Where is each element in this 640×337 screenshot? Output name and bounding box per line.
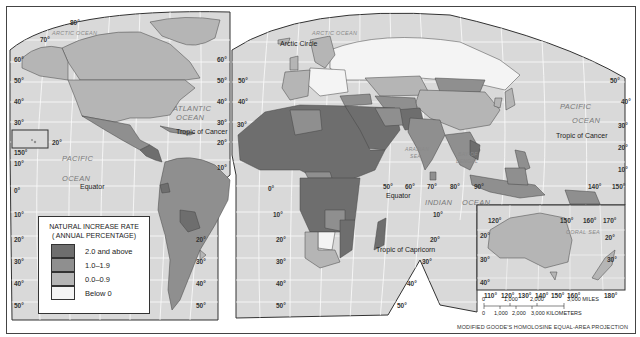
inset-lat-30: 30° — [480, 257, 490, 264]
bay-of-bengal-label-2: BENGAL — [456, 159, 478, 164]
lat-mid-20: 20° — [217, 140, 227, 147]
lat-50: 50° — [14, 78, 24, 85]
lat-afr-20: 20° — [276, 237, 286, 244]
lat-ind-10: 10° — [433, 212, 443, 219]
scale-km-1000: 1,000 — [494, 311, 508, 317]
lat-right-50: 50° — [610, 78, 620, 85]
legend-label: 0.0–0.9 — [85, 275, 110, 284]
inset-lat-r-20: 20° — [605, 235, 615, 242]
lat-s10: 10° — [14, 212, 24, 219]
scale-mi-3000: 3,000 MILES — [567, 297, 599, 303]
legend-swatch — [51, 244, 75, 258]
legend-swatch — [51, 272, 75, 286]
arabian-sea-label-2: SEA — [410, 154, 421, 159]
inset-lon-b150: 150° — [551, 293, 564, 300]
inset-lon-180: 180° — [604, 293, 617, 300]
lat-80: 80° — [70, 20, 80, 27]
lat-afr-10: 10° — [273, 212, 283, 219]
lat-mid-10: 10° — [217, 165, 227, 172]
inset-lon-160: 160° — [583, 218, 596, 225]
turkey — [340, 94, 372, 106]
lat-right-30: 30° — [618, 123, 628, 130]
arctic-circle-label: Arctic Circle — [280, 40, 317, 47]
mongolia — [435, 78, 485, 92]
lat-eu-50: 50° — [238, 78, 248, 85]
indian-ocean-label: OCEAN — [462, 199, 490, 207]
png — [565, 190, 600, 204]
lon-150: 150° — [612, 184, 625, 191]
pacific-west-label-2: OCEAN — [62, 175, 90, 183]
legend-item: 1.0–1.9 — [51, 258, 146, 272]
lat-afr-40: 40° — [276, 281, 286, 288]
legend: NATURAL INCREASE RATE ( ANNUAL PERCENTAG… — [38, 216, 150, 314]
atlantic-label-2: OCEAN — [176, 114, 204, 122]
lon-70: 70° — [427, 184, 437, 191]
equator-west-label: Equator — [80, 183, 105, 190]
lat-60: 60° — [14, 57, 24, 64]
scale-bar — [484, 303, 564, 309]
lat-mid-30: 30° — [217, 120, 227, 127]
inset-lon-120: 120° — [488, 218, 501, 225]
inset-lon-110: 110° — [484, 293, 497, 300]
legend-item: Below 0 — [51, 286, 146, 300]
lat-eu-40: 40° — [238, 99, 248, 106]
legend-title-2: ( ANNUAL PERCENTAGE) — [39, 231, 149, 240]
lon-80: 80° — [450, 184, 460, 191]
inset-lat-r-30: 30° — [607, 257, 617, 264]
lat-mid-50: 50° — [217, 78, 227, 85]
ecuador — [160, 183, 170, 193]
lat-30: 30° — [14, 120, 24, 127]
lat-s20: 20° — [14, 237, 24, 244]
lat-mid-60: 60° — [217, 57, 227, 64]
scale-mi-1000: 1,000 — [504, 297, 518, 303]
scale-km-2000: 2,000 — [512, 311, 526, 317]
indian-label: INDIAN — [425, 199, 452, 207]
borneo — [505, 168, 528, 185]
legend-swatch — [51, 286, 75, 300]
lat-right-20: 20° — [618, 145, 628, 152]
inset-lat-40: 40° — [480, 280, 490, 287]
tropic-cancer-west-label: Tropic of Cancer — [176, 128, 227, 135]
lat-s30: 30° — [14, 259, 24, 266]
hawaii-lon: 150° — [14, 150, 27, 157]
tropic-cancer-east-label: Tropic of Cancer — [556, 132, 607, 139]
scale-km-0: 0 — [482, 311, 485, 317]
inset-lat-20: 20° — [480, 233, 490, 240]
projection-credit: MODIFIED GOODE'S HOMOLOSINE EQUAL-AREA P… — [457, 324, 628, 330]
legend-title-1: NATURAL INCREASE RATE — [39, 222, 149, 231]
arctic-ocean-west-label: ARCTIC OCEAN — [52, 31, 97, 37]
atlantic-label-1: ATLANTIC — [173, 105, 211, 113]
tropic-capricorn-label: Tropic of Capricorn — [376, 246, 435, 253]
lat-ind-20: 20° — [430, 237, 440, 244]
hawaii-inset — [12, 130, 48, 148]
lat-sa-20: 20° — [196, 237, 206, 244]
bay-of-bengal-label-1: BAY OF — [458, 152, 478, 157]
legend-item: 0.0–0.9 — [51, 272, 146, 286]
pacific-east-label-2: OCEAN — [572, 117, 600, 125]
equator-east-label: Equator — [386, 192, 411, 199]
scale-km-3000: 3,000 KILOMETERS — [531, 311, 582, 317]
lat-af-30: 30° — [237, 122, 247, 129]
lat-ind-40: 40° — [407, 281, 417, 288]
legend-swatch — [51, 258, 75, 272]
lat-ind-50: 50° — [397, 303, 407, 310]
legend-label: Below 0 — [85, 289, 112, 298]
botswana — [318, 232, 335, 250]
lat-10: 10° — [14, 161, 24, 168]
legend-label: 1.0–1.9 — [85, 261, 110, 270]
uk — [290, 56, 298, 70]
central-africa-band — [305, 172, 332, 178]
lat-40: 40° — [14, 99, 24, 106]
lat-0: 0° — [14, 188, 20, 195]
scale-mi-0: 0 — [482, 297, 485, 303]
inset-lon-150: 150° — [560, 218, 573, 225]
coral-sea-label: CORAL SEA — [566, 230, 600, 236]
lat-s40: 40° — [14, 281, 24, 288]
lon-140: 140° — [588, 184, 601, 191]
arabian-sea-label-1: ARABIAN — [405, 147, 429, 152]
lat-afr-30: 30° — [276, 259, 286, 266]
lat-sa-30: 30° — [196, 259, 206, 266]
lat-70: 70° — [40, 37, 50, 44]
lat-sa-40: 40° — [196, 281, 206, 288]
pacific-east-label-1: PACIFIC — [560, 103, 591, 111]
